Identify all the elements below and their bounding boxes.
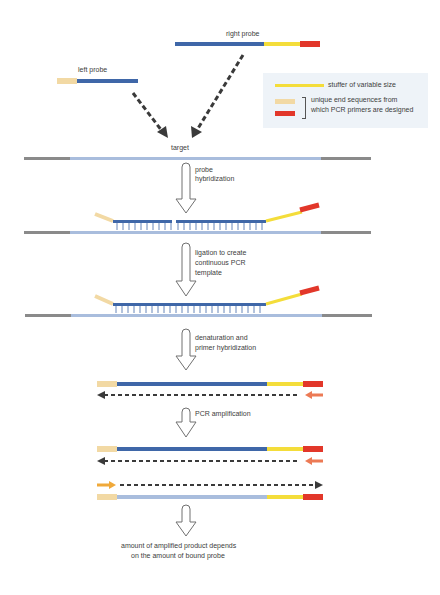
right-probe <box>175 41 320 47</box>
down-arrow-icon <box>176 243 196 296</box>
step-3-label-line1: denaturation and <box>195 334 248 343</box>
legend-bracket <box>302 97 306 119</box>
arrowhead-left-icon <box>97 457 105 465</box>
hybridized-probes <box>24 205 371 234</box>
legend-label-end-sequences-2: which PCR primers are designed <box>311 106 413 115</box>
pcr-product-strand-2 <box>97 481 323 500</box>
legend-swatch-beige <box>275 99 295 104</box>
down-arrow-icon <box>176 163 196 213</box>
left-probe-label: left probe <box>78 66 107 75</box>
pcr-product-strand-1 <box>97 446 323 465</box>
legend-swatch-red <box>275 111 295 116</box>
dashed-arrow-left-probe-to-target <box>133 93 168 138</box>
arrowhead-icon <box>191 126 202 138</box>
target-label: target <box>171 144 189 153</box>
arrowhead-left-icon <box>97 391 105 399</box>
denatured-probe-with-primer <box>97 381 323 399</box>
step-4-label: PCR amplification <box>195 410 251 419</box>
legend: stuffer of variable size unique end sequ… <box>263 73 428 128</box>
right-probe-label: right probe <box>226 30 259 39</box>
step-1-label-line2: hybridization <box>195 175 234 184</box>
primer-arrow-icon <box>305 457 312 465</box>
step-2-label-line3: template <box>195 269 222 278</box>
down-arrow-icon <box>176 329 196 370</box>
down-arrow-icon <box>176 505 196 536</box>
dashed-arrow-right-probe-to-target <box>191 55 243 138</box>
down-arrow-icon <box>176 408 196 437</box>
step-2-label-line2: continuous PCR <box>195 259 246 268</box>
step-1-label-line1: probe <box>195 166 213 175</box>
conclusion-line1: amount of amplified product depends <box>121 542 236 551</box>
step-3-label-line2: primer hybridization <box>195 344 256 353</box>
legend-label-end-sequences-1: unique end sequences from <box>311 96 397 105</box>
primer-arrow-icon <box>305 391 312 399</box>
step-2-label-line1: ligation to create <box>195 249 246 258</box>
legend-swatch-stuffer <box>275 84 324 87</box>
ligated-probe <box>25 288 372 317</box>
arrowhead-right-icon <box>315 481 323 489</box>
target-strand <box>24 157 371 160</box>
primer-arrow-icon <box>109 481 116 489</box>
left-probe <box>57 78 138 84</box>
conclusion-line2: on the amount of bound probe <box>131 552 225 561</box>
legend-label-stuffer: stuffer of variable size <box>328 81 396 90</box>
